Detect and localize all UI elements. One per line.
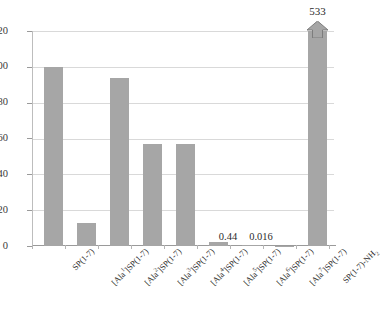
x-axis-label-sp-1-7: SP(1-7) <box>71 247 97 273</box>
label-tail: ]SP(1-7) <box>320 246 348 274</box>
y-tick-label-100: 100 <box>0 61 8 72</box>
bar-sp-1-7-nh2[interactable] <box>308 31 327 246</box>
bar-ala3-sp-1-7[interactable] <box>143 144 162 246</box>
value-label-clipped: 533 <box>298 6 338 17</box>
bars-layer <box>32 31 334 246</box>
value-label-ala6: 0.44 <box>213 232 243 243</box>
bar-ala1-sp-1-7[interactable] <box>77 223 96 246</box>
bar-ala5-sp-1-7[interactable] <box>209 242 228 246</box>
up-arrow-icon <box>306 21 329 38</box>
bar-ala6-sp-1-7[interactable] <box>242 245 261 246</box>
y-tick-label-20: 20 <box>0 205 8 216</box>
y-tick-label-120: 120 <box>0 26 8 37</box>
x-axis-labels: SP(1-7) [Ala1]SP(1-7) [Ala2]SP(1-7) [Ala… <box>32 247 334 314</box>
label-tail: ]SP(1-7) <box>254 246 282 274</box>
bar-ala4-sp-1-7[interactable] <box>176 144 195 246</box>
label-tail: ]SP(1-7) <box>122 246 150 274</box>
label-tail: ]SP(1-7) <box>155 246 183 274</box>
label-tail: ]SP(1-7) <box>221 246 249 274</box>
y-tick-label-40: 40 <box>0 169 8 180</box>
label-base: SP(1-7) <box>70 246 96 272</box>
y-tick-label-60: 60 <box>0 133 8 144</box>
label-tail: ]SP(1-7) <box>188 246 216 274</box>
bar-sp-1-7[interactable] <box>44 67 63 246</box>
bar-ala2-sp-1-7[interactable] <box>110 78 129 247</box>
label-tail: ]SP(1-7) <box>287 246 315 274</box>
y-tick-label-0: 0 <box>3 241 8 252</box>
y-tick-label-80: 80 <box>0 97 8 108</box>
value-label-ala7: 0.016 <box>244 232 278 243</box>
